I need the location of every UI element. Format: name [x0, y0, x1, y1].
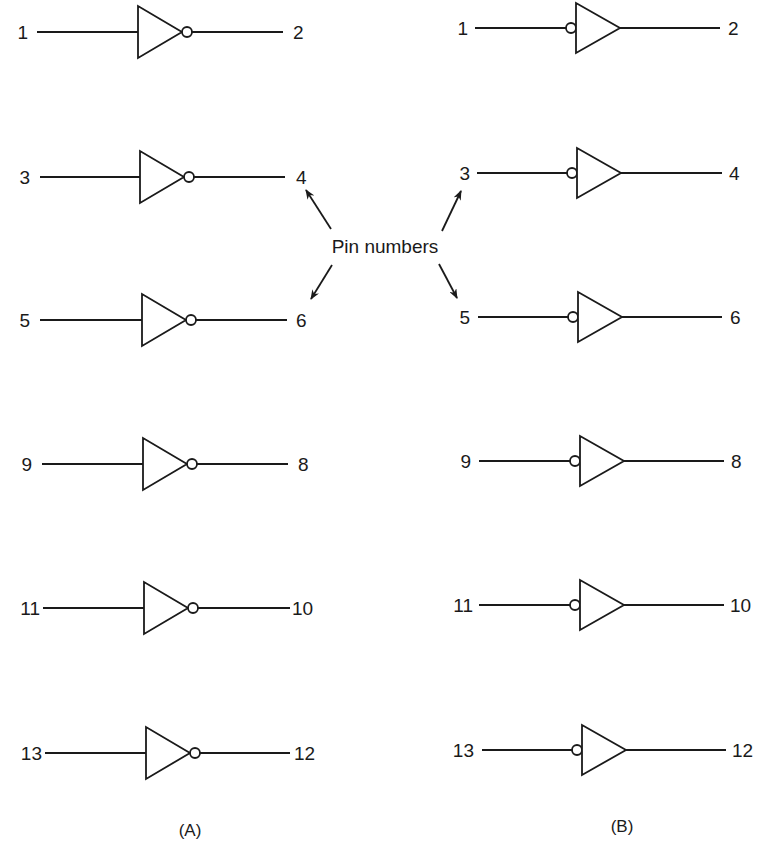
inverted-input-buffer-gate: 34: [459, 148, 740, 198]
inverted-input-buffer-gate: 1312: [453, 725, 753, 775]
output-pin-label: 2: [728, 18, 739, 39]
inverter-pinout-diagram: 1234569811101312 1234569811101312 Pin nu…: [0, 0, 768, 861]
inverter-gate: 1312: [21, 727, 315, 779]
buffer-triangle-icon: [582, 725, 626, 775]
inversion-bubble-icon: [186, 315, 196, 325]
output-pin-label: 4: [729, 163, 740, 184]
input-pin-label: 1: [17, 22, 28, 43]
pin-numbers-annotation: Pin numbers: [306, 190, 461, 299]
buffer-triangle-icon: [142, 294, 186, 346]
output-pin-label: 8: [298, 454, 309, 475]
arrow-to-pin-6-icon: [311, 265, 332, 299]
pin-numbers-label: Pin numbers: [332, 236, 439, 257]
inversion-bubble-icon: [187, 459, 197, 469]
buffer-triangle-icon: [140, 151, 184, 203]
output-pin-label: 12: [294, 743, 315, 764]
inversion-bubble-icon: [566, 23, 576, 33]
input-pin-label: 11: [453, 595, 473, 616]
inversion-bubble-icon: [570, 600, 580, 610]
input-pin-label: 5: [19, 310, 30, 331]
output-pin-label: 4: [296, 167, 307, 188]
inversion-bubble-icon: [182, 27, 192, 37]
inversion-bubble-icon: [568, 312, 578, 322]
inverter-gate: 1110: [20, 582, 313, 634]
output-pin-label: 12: [732, 740, 753, 761]
inversion-bubble-icon: [188, 603, 198, 613]
inversion-bubble-icon: [572, 745, 582, 755]
buffer-triangle-icon: [578, 292, 622, 342]
buffer-triangle-icon: [577, 148, 621, 198]
input-pin-label: 13: [21, 743, 42, 764]
buffer-triangle-icon: [144, 582, 188, 634]
inverted-input-buffer-gate: 12: [457, 3, 738, 53]
input-pin-label: 13: [453, 740, 474, 761]
input-pin-label: 9: [21, 454, 32, 475]
inverted-input-buffer-gate: 56: [459, 292, 740, 342]
inverted-input-buffer-gate: 1110: [453, 580, 751, 630]
input-pin-label: 3: [459, 163, 470, 184]
buffer-triangle-icon: [143, 438, 187, 490]
inversion-bubble-icon: [570, 456, 580, 466]
input-pin-label: 5: [459, 307, 470, 328]
panel-a-inverters: 1234569811101312: [17, 6, 315, 779]
buffer-triangle-icon: [138, 6, 182, 58]
arrow-to-pin-3-icon: [442, 191, 461, 231]
inverter-gate: 98: [21, 438, 308, 490]
input-pin-label: 3: [19, 167, 30, 188]
inverter-gate: 12: [17, 6, 303, 58]
inverter-gate: 34: [19, 151, 307, 203]
buffer-triangle-icon: [146, 727, 190, 779]
inverter-gate: 56: [19, 294, 306, 346]
output-pin-label: 2: [293, 22, 304, 43]
output-pin-label: 8: [731, 451, 742, 472]
output-pin-label: 6: [296, 310, 307, 331]
panel-b-inverted-input-buffers: 1234569811101312: [453, 3, 753, 775]
inversion-bubble-icon: [190, 748, 200, 758]
output-pin-label: 10: [730, 595, 751, 616]
panel-b-caption: (B): [611, 817, 634, 836]
buffer-triangle-icon: [576, 3, 620, 53]
inversion-bubble-icon: [184, 172, 194, 182]
buffer-triangle-icon: [580, 436, 624, 486]
output-pin-label: 6: [730, 307, 741, 328]
arrow-to-pin-4-icon: [306, 190, 331, 229]
input-pin-label: 11: [20, 598, 40, 619]
input-pin-label: 9: [460, 451, 471, 472]
input-pin-label: 1: [457, 18, 468, 39]
inversion-bubble-icon: [567, 168, 577, 178]
arrow-to-pin-5-icon: [439, 264, 457, 298]
output-pin-label: 10: [292, 598, 313, 619]
buffer-triangle-icon: [580, 580, 624, 630]
panel-a-caption: (A): [179, 821, 202, 840]
inverted-input-buffer-gate: 98: [460, 436, 741, 486]
